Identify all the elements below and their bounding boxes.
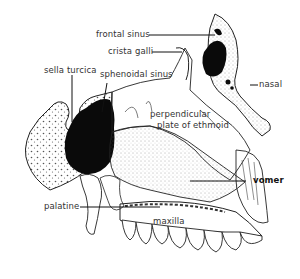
anatomy-illustration [0,0,300,279]
label-nasal: nasal [259,80,282,89]
label-perpendicular-plate-line1: perpendicular [150,110,210,119]
label-frontal-sinus: frontal sinus [96,30,150,39]
label-crista-galli: crista galli [108,47,153,56]
label-sphenoidal-sinus: sphenoidal sinus [100,70,173,79]
label-perpendicular-plate-line2: plate of ethmoid [157,121,229,130]
label-maxilla: maxilla [153,217,185,226]
teeth [122,220,262,252]
palatine-bone [80,174,102,234]
label-palatine: palatine [44,202,79,211]
label-sella-turcica: sella turcica [44,66,97,75]
label-vomer: vomer [253,176,284,185]
